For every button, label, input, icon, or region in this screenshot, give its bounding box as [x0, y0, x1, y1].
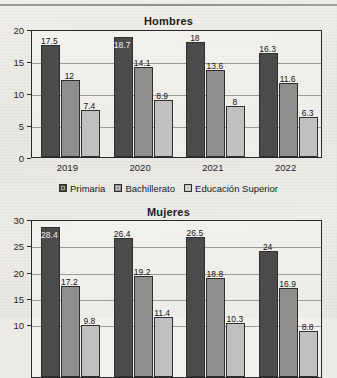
bar-value-label: 14.1	[134, 58, 151, 68]
bar-value-label: 26.5	[187, 228, 204, 238]
legend-item: Educación Superior	[184, 183, 278, 194]
legend-swatch	[114, 184, 122, 192]
bar	[114, 238, 133, 377]
bar	[114, 37, 133, 157]
bar-value-label: 8.8	[302, 322, 314, 332]
y-axis-tick	[27, 273, 31, 274]
bar-value-label: 24	[263, 242, 272, 252]
bar	[186, 237, 205, 377]
legend-item: Bachillerato	[114, 183, 175, 194]
bar-value-label: 11.4	[154, 308, 170, 318]
bar	[279, 83, 298, 157]
bar	[206, 278, 225, 377]
bar	[226, 106, 245, 157]
plot-area	[31, 30, 322, 158]
bar-value-label: 13.6	[207, 61, 224, 71]
y-axis-tick	[27, 299, 31, 300]
y-axis-tick	[27, 30, 31, 31]
bar	[206, 70, 225, 157]
y-axis-tick	[27, 158, 31, 159]
bar	[41, 45, 60, 157]
bar	[279, 288, 298, 377]
bar-value-label: 16.9	[279, 279, 296, 289]
y-axis-label: 25	[0, 241, 24, 252]
legend-swatch	[184, 184, 192, 192]
bar	[61, 286, 80, 377]
y-axis-label: 10	[0, 320, 24, 331]
bar-value-label: 6.3	[302, 108, 314, 118]
bar	[81, 325, 100, 377]
bar-value-label: 19.2	[134, 267, 151, 277]
bar-value-label: 8	[233, 97, 238, 107]
x-axis-label: 2019	[31, 162, 104, 173]
y-axis-label: 15	[0, 57, 24, 68]
bar-value-label: 7.4	[83, 101, 95, 111]
chart-legend: PrimariaBachilleratoEducación Superior	[0, 180, 337, 196]
y-axis-label: 5	[0, 121, 24, 132]
bar	[226, 323, 245, 377]
bar	[41, 227, 60, 377]
y-axis-label: 30	[0, 215, 24, 226]
bar-chart-mujeres: 101520253028.417.29.826.419.211.426.518.…	[0, 220, 337, 318]
bar-value-label: 18.8	[207, 269, 224, 279]
bar	[259, 251, 278, 377]
bar-value-label: 18	[190, 33, 199, 43]
bar-value-label: 17.5	[41, 36, 58, 46]
y-axis-tick	[27, 220, 31, 221]
legend-label: Primaria	[70, 183, 105, 194]
gridline	[32, 247, 321, 248]
y-axis-label: 0	[0, 153, 24, 164]
x-axis-label: 2020	[104, 162, 177, 173]
legend-label: Educación Superior	[195, 183, 278, 194]
bar-value-label: 28.4	[41, 230, 58, 240]
bar	[154, 100, 173, 157]
bar-value-label: 10.3	[227, 314, 244, 324]
y-axis-tick	[27, 62, 31, 63]
y-axis-label: 20	[0, 25, 24, 36]
x-axis-label: 2022	[249, 162, 322, 173]
bar-value-label: 18.7	[114, 40, 131, 50]
bar-value-label: 17.2	[61, 277, 78, 287]
y-axis-tick	[27, 94, 31, 95]
y-axis-tick	[27, 325, 31, 326]
y-axis-label: 10	[0, 89, 24, 100]
bar	[186, 42, 205, 157]
legend-item: Primaria	[59, 183, 105, 194]
bar	[154, 317, 173, 377]
bar-chart-hombres: 0510152017.5127.4201918.714.18.920201813…	[0, 0, 337, 178]
bar	[61, 80, 80, 157]
bar-value-label: 8.9	[156, 91, 168, 101]
y-axis-tick	[27, 126, 31, 127]
y-axis-label: 15	[0, 294, 24, 305]
plot-area	[31, 220, 322, 378]
y-axis-tick	[27, 246, 31, 247]
bar-value-label: 26.4	[114, 229, 131, 239]
y-axis-label: 20	[0, 267, 24, 278]
x-axis-label: 2021	[177, 162, 250, 173]
bar-value-label: 9.8	[83, 316, 95, 326]
bar-value-label: 16.3	[259, 44, 276, 54]
bar	[134, 276, 153, 377]
bar	[81, 110, 100, 157]
bar	[259, 53, 278, 157]
bar-value-label: 11.6	[280, 74, 296, 84]
bar	[134, 67, 153, 157]
chart-title-mujeres: Mujeres	[0, 206, 337, 218]
legend-label: Bachillerato	[125, 183, 175, 194]
bar-value-label: 12	[65, 71, 74, 81]
bar	[299, 331, 318, 377]
legend-swatch	[59, 184, 67, 192]
bar	[299, 117, 318, 157]
